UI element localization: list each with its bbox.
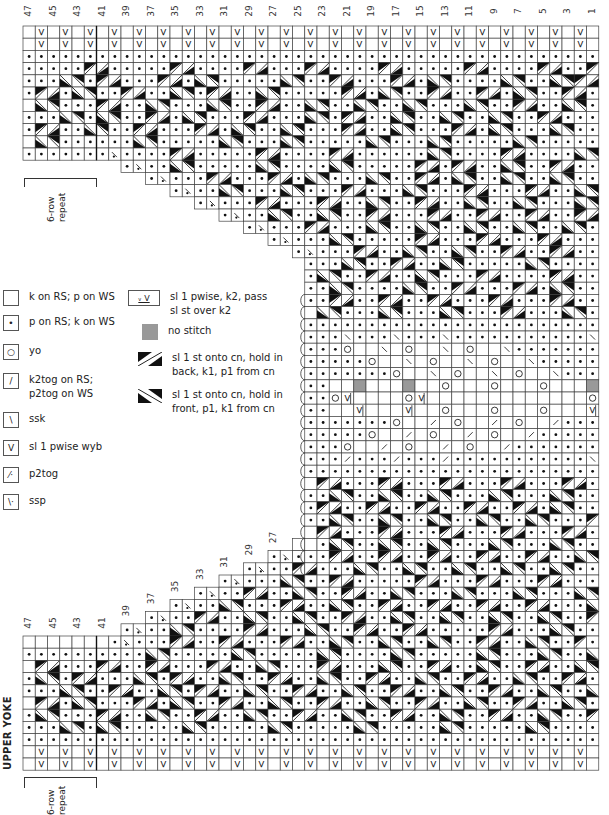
legend-label: p2tog <box>29 467 58 481</box>
chart-cell <box>366 258 378 270</box>
chart-cell <box>293 587 305 599</box>
chart-cell <box>562 197 574 209</box>
purl-dot <box>77 141 80 144</box>
chart-cell <box>550 307 562 319</box>
chart-cell <box>342 294 354 306</box>
chart-cell <box>489 465 501 477</box>
chart-cell <box>513 575 525 587</box>
chart-cell <box>427 343 439 355</box>
purl-dot <box>481 287 484 290</box>
chart-cell <box>317 331 329 343</box>
purl-dot <box>346 433 349 436</box>
chart-cell <box>525 136 537 148</box>
chart-cell <box>574 441 586 453</box>
chart-cell <box>280 63 292 75</box>
purl-dot <box>358 470 361 473</box>
chart-cell <box>109 63 121 75</box>
chart-cell <box>342 648 354 660</box>
chart-cell <box>329 124 341 136</box>
purl-dot <box>432 531 435 534</box>
purl-dot <box>64 92 67 95</box>
p2tog-dot <box>235 217 237 219</box>
chart-cell <box>476 587 488 599</box>
chart-cell <box>501 416 513 428</box>
chart-cell <box>415 477 427 489</box>
chart-cell <box>244 50 256 62</box>
purl-dot <box>383 690 386 693</box>
chart-cell <box>587 380 599 392</box>
chart-cell <box>317 453 329 465</box>
purl-dot <box>334 177 337 180</box>
chart-cell <box>244 575 256 587</box>
purl-dot <box>579 324 582 327</box>
chart-cell <box>195 197 207 209</box>
purl-dot <box>309 263 312 266</box>
chart-cell <box>342 197 354 209</box>
chart-cell <box>72 660 84 672</box>
chart-cell <box>403 612 415 624</box>
column-label: 23 <box>317 5 327 16</box>
chart-cell <box>562 599 574 611</box>
purl-dot <box>505 580 508 583</box>
purl-dot <box>530 629 533 632</box>
chart-cell <box>489 331 501 343</box>
chart-cell <box>305 63 317 75</box>
chart-cell <box>415 50 427 62</box>
chart-cell <box>501 294 513 306</box>
chart-cell <box>329 563 341 575</box>
chart-cell <box>501 404 513 416</box>
chart-cell <box>440 612 452 624</box>
chart-cell <box>72 124 84 136</box>
chart-cell <box>366 136 378 148</box>
chart-cell <box>464 343 476 355</box>
purl-dot <box>530 470 533 473</box>
slip-mark: > <box>109 760 120 768</box>
purl-dot <box>346 421 349 424</box>
chart-cell <box>464 453 476 465</box>
chart-cell <box>84 697 96 709</box>
chart-cell <box>378 87 390 99</box>
chart-cell <box>268 746 280 758</box>
chart-cell <box>329 270 341 282</box>
chart-cell <box>513 209 525 221</box>
chart-cell <box>525 319 537 331</box>
chart-cell: > <box>452 38 464 50</box>
chart-cell <box>415 38 427 50</box>
chart-cell <box>464 111 476 123</box>
chart-cell <box>378 538 390 550</box>
purl-dot <box>591 287 594 290</box>
chart-cell <box>268 50 280 62</box>
purl-dot <box>52 738 55 741</box>
chart-cell <box>415 453 427 465</box>
chart-cell <box>489 63 501 75</box>
chart-cell <box>342 380 354 392</box>
chart-cell: > <box>305 746 317 758</box>
purl-dot <box>591 92 594 95</box>
chart-cell <box>501 343 513 355</box>
chart-cell <box>244 87 256 99</box>
purl-dot <box>591 263 594 266</box>
chart-cell <box>464 75 476 87</box>
chart-cell <box>342 355 354 367</box>
chart-cell <box>305 490 317 502</box>
chart-cell <box>305 477 317 489</box>
purl-dot <box>358 738 361 741</box>
chart-cell <box>293 709 305 721</box>
purl-dot <box>591 629 594 632</box>
chart-cell <box>476 563 488 575</box>
chart-cell <box>476 282 488 294</box>
purl-dot <box>162 641 165 644</box>
chart-cell <box>550 551 562 563</box>
chart-cell <box>574 697 586 709</box>
slip-mark: > <box>256 748 267 756</box>
column-label: 3 <box>562 8 572 14</box>
chart-cell <box>452 392 464 404</box>
purl-dot <box>236 165 239 168</box>
chart-cell <box>587 99 599 111</box>
chart-cell <box>476 221 488 233</box>
chart-cell <box>440 148 452 160</box>
chart-cell <box>72 99 84 111</box>
purl-dot <box>224 128 227 131</box>
chart-cell <box>391 319 403 331</box>
chart-cell <box>427 636 439 648</box>
